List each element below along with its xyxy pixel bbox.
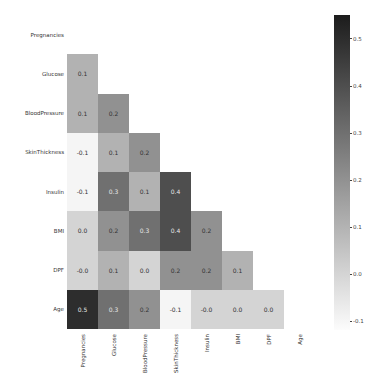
heatmap-cell: 0.3 — [98, 290, 129, 329]
heatmap-cell: 0.2 — [191, 211, 222, 250]
heatmap-cell: 0.2 — [191, 251, 222, 290]
heatmap-cell: 0.0 — [222, 290, 253, 329]
heatmap-cell: 0.1 — [98, 133, 129, 172]
y-axis-label: BloodPressure — [25, 110, 64, 116]
heatmap-cell: 0.3 — [129, 211, 160, 250]
colorbar-tick-label: 0.1 — [350, 224, 362, 230]
colorbar-tick-label: 0.0 — [350, 271, 362, 277]
heatmap-cell: 0.0 — [129, 251, 160, 290]
heatmap-cell: 0.2 — [98, 211, 129, 250]
heatmap-cell: 0.2 — [129, 290, 160, 329]
y-axis-label: BMI — [54, 228, 64, 234]
colorbar — [334, 15, 350, 330]
y-axis-label: Pregnancies — [31, 32, 64, 38]
heatmap-cell: 0.4 — [160, 172, 191, 211]
heatmap-cell: -0.1 — [67, 133, 98, 172]
heatmap-cell: -0.0 — [191, 290, 222, 329]
heatmap-cell: 0.4 — [160, 211, 191, 250]
x-axis-label: Age — [297, 334, 303, 345]
x-axis-label: DPF — [266, 334, 272, 345]
colorbar-tick-label: 0.3 — [350, 130, 362, 136]
y-axis-label: Age — [53, 306, 64, 312]
heatmap-cell: 0.0 — [253, 290, 284, 329]
x-axis-label: BMI — [235, 334, 241, 344]
heatmap-cell: -0.1 — [67, 172, 98, 211]
heatmap-cell: -0.0 — [67, 251, 98, 290]
y-axis-label: Glucose — [42, 71, 64, 77]
heatmap-cell: 0.1 — [222, 251, 253, 290]
x-axis-label: BloodPressure — [142, 334, 148, 373]
correlation-heatmap: 0.10.10.2-0.10.10.2-0.10.30.10.40.00.20.… — [0, 0, 382, 389]
heatmap-cell: 0.5 — [67, 290, 98, 329]
y-axis-label: Insulin — [46, 189, 64, 195]
colorbar-tick-label: 0.2 — [350, 177, 362, 183]
colorbar-tick-label: 0.5 — [350, 36, 362, 42]
heatmap-cell: -0.1 — [160, 290, 191, 329]
heatmap-cell: 0.2 — [98, 94, 129, 133]
x-axis-label: SkinThickness — [173, 334, 179, 373]
heatmap-cell: 0.0 — [67, 211, 98, 250]
x-axis-label: Pregnancies — [80, 334, 86, 367]
heatmap-cell: 0.3 — [98, 172, 129, 211]
heatmap-cell: 0.1 — [129, 172, 160, 211]
heatmap-cell: 0.2 — [129, 133, 160, 172]
y-axis-label: SkinThickness — [25, 149, 64, 155]
heatmap-cell: 0.1 — [67, 54, 98, 93]
heatmap-cell: 0.1 — [98, 251, 129, 290]
x-axis-label: Insulin — [204, 334, 210, 352]
x-axis-label: Glucose — [111, 334, 117, 356]
heatmap-cell: 0.1 — [67, 94, 98, 133]
colorbar-tick-label: -0.1 — [350, 318, 364, 324]
y-axis-label: DPF — [53, 267, 64, 273]
heatmap-cell: 0.2 — [160, 251, 191, 290]
colorbar-tick-label: 0.4 — [350, 83, 362, 89]
